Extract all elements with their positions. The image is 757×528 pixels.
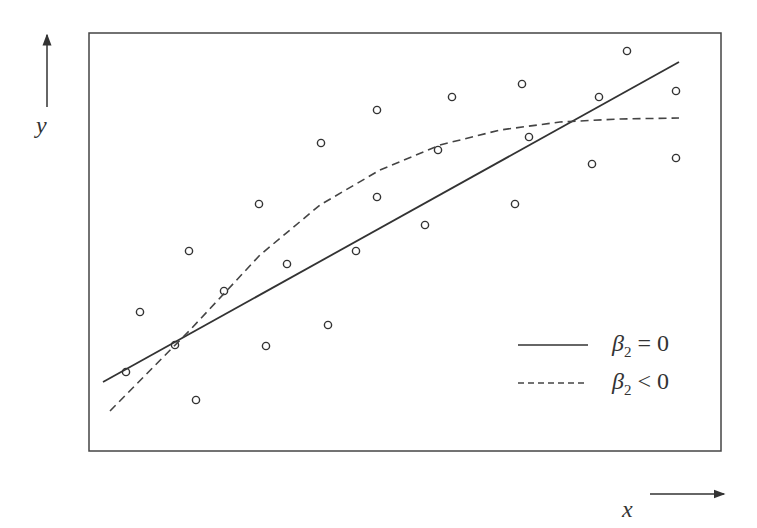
legend-subscript: 2: [624, 344, 632, 360]
legend-subscript: 2: [624, 382, 632, 398]
legend-entry-beta2-negative: β2 < 0: [612, 368, 669, 399]
data-point: [448, 93, 455, 100]
legend-symbol: β: [612, 330, 624, 356]
scatter-points: [122, 47, 679, 403]
data-point: [588, 160, 595, 167]
linear-fit-line: [103, 62, 679, 382]
data-point: [192, 396, 199, 403]
data-point: [373, 193, 380, 200]
quadratic-fit-line: [110, 118, 679, 411]
legend-relation: = 0: [637, 330, 669, 356]
data-point: [518, 80, 525, 87]
legend-entry-beta2-zero: β2 = 0: [612, 330, 669, 361]
data-point: [262, 342, 269, 349]
data-point: [317, 139, 324, 146]
data-point: [255, 200, 262, 207]
data-point: [595, 93, 602, 100]
data-point: [324, 321, 331, 328]
data-point: [623, 47, 630, 54]
data-point: [672, 87, 679, 94]
chart-svg: [0, 0, 757, 528]
data-point: [511, 200, 518, 207]
legend-relation: < 0: [637, 368, 669, 394]
legend-symbol: β: [612, 368, 624, 394]
data-point: [352, 247, 359, 254]
x-axis-label: x: [622, 496, 633, 523]
data-point: [185, 247, 192, 254]
data-point: [672, 154, 679, 161]
data-point: [421, 221, 428, 228]
data-point: [525, 133, 532, 140]
data-point: [373, 106, 380, 113]
data-point: [136, 308, 143, 315]
data-point: [283, 260, 290, 267]
y-axis-label: y: [36, 112, 47, 139]
